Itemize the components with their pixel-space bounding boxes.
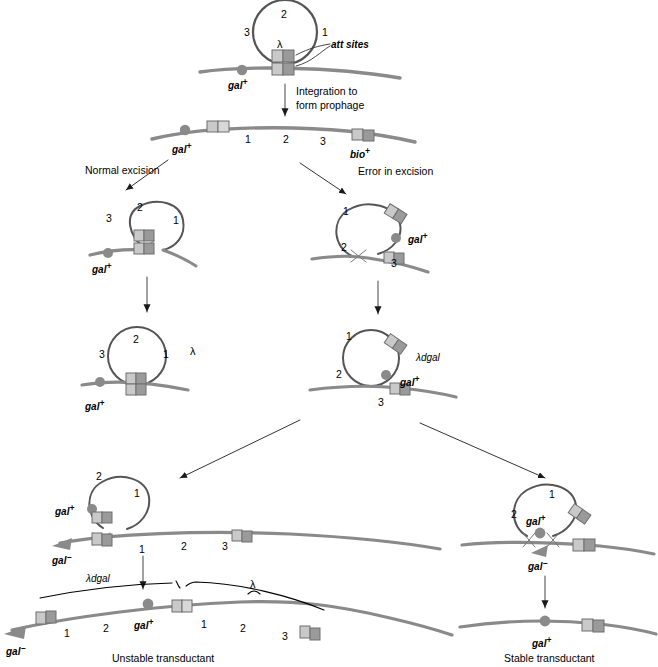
brace-lambda-dgal [40, 581, 180, 598]
dgal-marker-1: 1 [346, 330, 352, 342]
prophage-marker-1: 1 [245, 133, 251, 145]
gal-plus-marker-top [237, 65, 247, 75]
gal-plus-label-error: gal+ [408, 231, 427, 245]
att-box-left-prophage [207, 121, 229, 132]
gal-plus-label-stable-loop: gal+ [526, 513, 545, 527]
gal-plus-marker-result [143, 599, 154, 610]
result-marker-right-2: 2 [240, 622, 246, 634]
lambda-product-marker-1: 1 [163, 348, 169, 360]
gal-minus-label-stable: gal− [528, 558, 547, 572]
att-box-stable-result [582, 619, 604, 632]
crossover-x-stable-left [523, 533, 535, 547]
normal-loop-marker-1: 1 [173, 214, 179, 226]
gal-minus-triangle-unstable [52, 538, 72, 550]
integration-label-line2: form prophage [296, 99, 364, 111]
normal-excision-label: Normal excision [85, 164, 160, 176]
lambda-product-marker-3: 3 [99, 348, 105, 360]
error-loop-marker-1: 1 [343, 205, 349, 217]
prophage-marker-3: 3 [320, 135, 326, 147]
result-marker-left-2: 2 [103, 622, 109, 634]
error-loop-marker-3: 3 [391, 257, 397, 269]
gal-plus-label-prophage: gal+ [172, 141, 191, 155]
gal-minus-label-unstable: gal− [52, 552, 71, 566]
att-box-host-normal [134, 243, 154, 254]
normal-loop-marker-2: 2 [137, 201, 143, 213]
stable-transductant-caption: Stable transductant [504, 652, 594, 664]
gal-plus-marker-prophage [180, 125, 190, 135]
gal-plus-label-top: gal+ [228, 77, 247, 91]
top-circle-marker-2: 2 [281, 8, 287, 20]
arrow-to-stable [420, 423, 545, 478]
stable-host-chromosome [462, 542, 654, 554]
stable-loop-marker-1: 1 [549, 488, 555, 500]
gal-plus-marker-lambda-product [95, 377, 105, 387]
bio-plus-label: bio+ [350, 146, 370, 160]
stable-loop-marker-2: 2 [511, 508, 517, 520]
top-circle-marker-1: 1 [322, 26, 328, 38]
gal-plus-marker-stable-loop [535, 528, 546, 539]
att-box-phage-top [272, 50, 294, 62]
gal-plus-label-unstable-loop: gal+ [55, 503, 74, 517]
brace-lambda-tip [248, 591, 260, 594]
dgal-marker-3: 3 [378, 396, 384, 408]
branch-arrow-right [300, 163, 346, 194]
gal-plus-marker-dgal [381, 370, 391, 380]
gal-plus-label-lambda-product: gal+ [85, 398, 104, 412]
lambda-product-marker-2: 2 [133, 333, 139, 345]
gal-minus-triangle-stable [531, 545, 548, 557]
att-box-lambda-host [126, 384, 146, 395]
diagram-canvas: 3 2 1 λ att sites gal+ Integration to fo… [0, 0, 658, 667]
dgal-marker-2: 2 [336, 368, 342, 380]
gal-plus-label-stable-result: gal+ [532, 635, 551, 649]
gal-plus-label-normal: gal+ [92, 261, 111, 275]
att-box-loop-error [384, 204, 407, 224]
att-box-stable-host [573, 539, 595, 551]
top-circle-marker-3: 3 [244, 26, 250, 38]
att-box-result-mid [172, 600, 192, 612]
gal-plus-marker-stable-result [540, 616, 551, 627]
unstable-chrom-marker-1: 1 [139, 543, 145, 555]
error-excision-host-line [312, 256, 428, 272]
gal-minus-label-result: gal− [6, 643, 25, 657]
att-box-unstable-host [92, 533, 112, 546]
error-loop-marker-2: 2 [341, 241, 347, 253]
lambda-dgal-label: λdgal [416, 352, 440, 363]
error-excision-label: Error in excision [358, 165, 433, 177]
att-box-unstable-loop [92, 512, 112, 523]
arrow-to-unstable [180, 420, 300, 478]
gal-plus-marker-error-loop [391, 233, 401, 243]
att-sites-label: att sites [331, 39, 369, 50]
unstable-transductant-chromosome [12, 602, 452, 635]
lambda-product-label: λ [190, 345, 196, 357]
unstable-loop-marker-2: 2 [96, 470, 102, 482]
result-marker-left-1: 1 [64, 627, 70, 639]
result-marker-right-1: 1 [201, 618, 207, 630]
stable-loop-path [514, 485, 576, 536]
att-box-result-left [36, 611, 56, 624]
brace-label-lambda-dgal: λdgal [86, 573, 110, 584]
normal-excision-tail [163, 250, 196, 266]
att-box-lambda-circle [126, 373, 146, 384]
att-box-result-right [300, 626, 320, 640]
gal-plus-marker-normal [103, 248, 113, 258]
unstable-chrom-marker-2: 2 [181, 540, 187, 552]
result-marker-right-3: 3 [282, 630, 288, 642]
normal-loop-marker-3: 3 [106, 212, 112, 224]
unstable-chrom-marker-3: 3 [222, 540, 228, 552]
gal-plus-label-dgal: gal+ [400, 374, 419, 388]
unstable-loop-marker-1: 1 [134, 487, 140, 499]
brace-label-lambda: λ [250, 578, 256, 590]
att-box-host-top [272, 63, 294, 75]
prophage-marker-2: 2 [283, 133, 289, 145]
unstable-transductant-caption: Unstable transductant [112, 652, 214, 664]
att-box-loop-normal [134, 230, 154, 241]
stable-transductant-chromosome [460, 621, 656, 634]
gal-plus-label-result: gal+ [134, 617, 153, 631]
top-circle-lambda-label: λ [277, 38, 283, 50]
att-box-unstable-right [232, 530, 252, 542]
att-box-right-prophage [352, 129, 374, 141]
integration-label-line1: Integration to [296, 85, 357, 97]
